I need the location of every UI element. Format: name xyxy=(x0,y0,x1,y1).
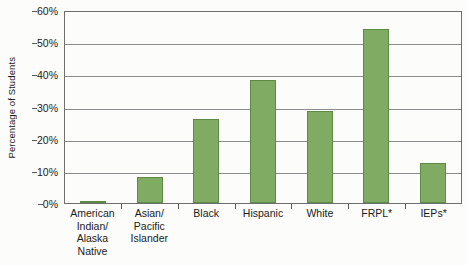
y-axis-tick-labels: 0%10%20%30%40%50%60% xyxy=(22,0,64,215)
bar-slot xyxy=(122,12,179,203)
x-axis-category-label-line: Hispanic xyxy=(236,207,291,220)
x-axis-category-label-line: Asian/ xyxy=(122,207,177,220)
bar[interactable] xyxy=(137,177,163,203)
y-axis-tick-label: 10% xyxy=(37,166,58,178)
x-axis-category-label-line: IEPs* xyxy=(406,207,461,220)
bar-slot xyxy=(178,12,235,203)
bar-chart: Percentage of Students 0%10%20%30%40%50%… xyxy=(0,0,468,265)
bar[interactable] xyxy=(363,29,389,203)
bar[interactable] xyxy=(307,111,333,203)
y-axis-tick-label: 50% xyxy=(37,37,58,49)
bar[interactable] xyxy=(193,119,219,203)
x-axis-category-label: FRPL* xyxy=(348,207,405,263)
bar[interactable] xyxy=(420,163,446,203)
x-axis-category-label-line: Indian/ xyxy=(65,220,120,233)
y-axis-tick-mark xyxy=(32,75,37,76)
x-axis-category-label: Hispanic xyxy=(235,207,292,263)
bar[interactable] xyxy=(80,201,106,203)
x-axis-category-label: Black xyxy=(178,207,235,263)
x-axis-category-label: White xyxy=(291,207,348,263)
y-axis-tick-mark xyxy=(38,204,43,205)
plot-area xyxy=(64,11,462,204)
x-axis-category-label-line: Islander xyxy=(122,232,177,245)
bar[interactable] xyxy=(250,80,276,203)
x-axis-category-label-line: Alaska xyxy=(65,232,120,245)
y-axis-title: Percentage of Students xyxy=(0,0,22,215)
y-axis-tick-mark xyxy=(32,11,37,12)
y-axis-tick-mark xyxy=(32,172,37,173)
y-axis-tick-label: 0% xyxy=(43,198,58,210)
y-axis-tick-label: 60% xyxy=(37,5,58,17)
y-axis-tick-label: 40% xyxy=(37,69,58,81)
x-axis-category-label: AmericanIndian/AlaskaNative xyxy=(64,207,121,263)
x-axis-category-label: IEPs* xyxy=(405,207,462,263)
y-axis-tick-mark xyxy=(32,140,37,141)
x-axis-category-label-line: White xyxy=(292,207,347,220)
y-axis-title-text: Percentage of Students xyxy=(6,57,17,159)
bar-slot xyxy=(404,12,461,203)
x-axis-category-label: Asian/PacificIslander xyxy=(121,207,178,263)
x-axis-category-label-line: Native xyxy=(65,245,120,258)
bar-slot xyxy=(291,12,348,203)
y-axis-tick-label: 20% xyxy=(37,134,58,146)
x-axis-category-label-line: Pacific xyxy=(122,220,177,233)
x-axis-category-labels: AmericanIndian/AlaskaNativeAsian/Pacific… xyxy=(64,207,462,263)
y-axis-tick-mark xyxy=(32,43,37,44)
x-axis-category-label-line: Black xyxy=(179,207,234,220)
x-axis-category-label-line: FRPL* xyxy=(349,207,404,220)
bar-slot xyxy=(235,12,292,203)
y-axis-tick-label: 30% xyxy=(37,102,58,114)
bars-group xyxy=(65,12,461,203)
bar-slot xyxy=(348,12,405,203)
x-axis-category-label-line: American xyxy=(65,207,120,220)
bar-slot xyxy=(65,12,122,203)
y-axis-tick-mark xyxy=(32,108,37,109)
